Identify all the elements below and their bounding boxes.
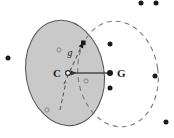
goal-point: [107, 70, 113, 76]
diagram-canvas: C G g: [0, 0, 174, 138]
goal-label: G: [117, 67, 126, 79]
filled-point: [139, 1, 144, 6]
filled-point: [6, 56, 11, 61]
boundary-square-marker: [81, 41, 86, 46]
filled-point: [154, 1, 159, 6]
filled-point: [108, 42, 113, 47]
figure-container: C G g: [0, 0, 174, 138]
center-label: C: [53, 67, 61, 79]
center-open-point: [66, 71, 71, 76]
gradient-label: g: [68, 47, 73, 58]
filled-point: [164, 120, 169, 125]
filled-point: [108, 86, 113, 91]
filled-point: [153, 74, 158, 79]
